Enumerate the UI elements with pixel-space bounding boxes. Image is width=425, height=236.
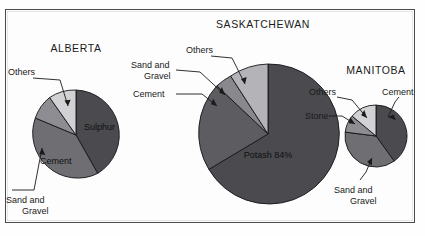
pie-label-alberta-others: Others — [8, 67, 36, 77]
pie-label-sask-potash: Potash 84% — [244, 150, 293, 160]
pie-label-sask-others: Others — [186, 45, 214, 55]
pie-label-manitoba-sand-gravel-line1: Sand and — [334, 185, 373, 195]
chart-alberta: ALBERTA Sulphur Cement Others Sand and G… — [6, 42, 119, 216]
figure-canvas: ALBERTA Sulphur Cement Others Sand and G… — [0, 0, 425, 236]
pie-label-manitoba-others: Others — [309, 87, 337, 97]
pie-charts-svg: ALBERTA Sulphur Cement Others Sand and G… — [0, 0, 425, 236]
pie-label-alberta-sulphur: Sulphur — [84, 122, 115, 132]
chart-title-alberta: ALBERTA — [50, 42, 101, 54]
pie-label-sask-cement: Cement — [133, 89, 165, 99]
pie-label-manitoba-sand-gravel-line2: Gravel — [350, 196, 377, 206]
pie-label-manitoba-cement: Cement — [382, 87, 414, 97]
pie-label-sask-sand-gravel-line1: Sand and — [131, 60, 170, 70]
chart-title-saskatchewan: SASKATCHEWAN — [216, 18, 310, 30]
pie-label-alberta-sand-gravel-line1: Sand and — [6, 195, 45, 205]
pie-label-sask-sand-gravel-line2: Gravel — [144, 71, 171, 81]
pie-label-alberta-sand-gravel-line2: Gravel — [22, 206, 49, 216]
chart-title-manitoba: MANITOBA — [346, 64, 405, 76]
pie-label-alberta-cement: Cement — [40, 156, 72, 166]
pie-label-manitoba-stone: Stone — [305, 111, 329, 121]
